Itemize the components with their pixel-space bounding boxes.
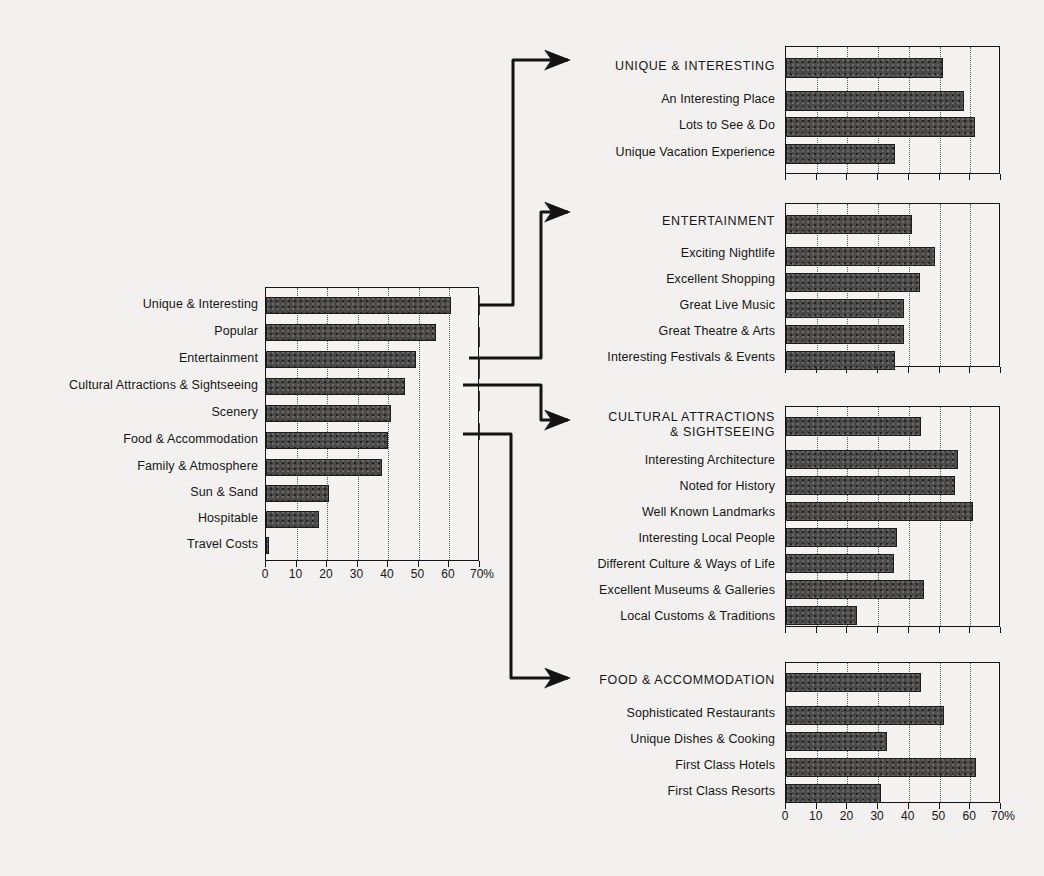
bar-entertainment-3 bbox=[786, 299, 904, 318]
food-tick-label-50: 50 bbox=[925, 809, 953, 823]
food-label-1: Sophisticated Restaurants bbox=[565, 706, 775, 720]
bar-unique-1 bbox=[786, 91, 964, 111]
cultural-label-0-line1: CULTURAL ATTRACTIONS bbox=[555, 410, 775, 424]
bar-main-9 bbox=[266, 537, 269, 554]
main-tick-label-30: 30 bbox=[343, 567, 371, 581]
cultural-label-7: Local Customs & Traditions bbox=[545, 609, 775, 623]
main-tick-label-60: 60 bbox=[434, 567, 462, 581]
main-tick-label-50: 50 bbox=[404, 567, 432, 581]
cultural-tick-10 bbox=[816, 627, 817, 633]
bar-food-1 bbox=[786, 706, 944, 725]
unique-tick-10 bbox=[816, 174, 817, 180]
bar-main-1 bbox=[266, 324, 436, 341]
food-tick-label-0: 0 bbox=[771, 809, 799, 823]
bar-main-5 bbox=[266, 432, 388, 449]
food-tick-label-30: 30 bbox=[863, 809, 891, 823]
bar-food-2 bbox=[786, 732, 887, 751]
gridline-60 bbox=[449, 288, 451, 560]
bar-main-8 bbox=[266, 511, 319, 528]
food-tick-label-10: 10 bbox=[802, 809, 830, 823]
unique-tick-50 bbox=[939, 174, 940, 180]
entertainment-tick-20 bbox=[846, 367, 847, 373]
cultural-tick-30 bbox=[877, 627, 878, 633]
cultural-label-0-line2: & SIGHTSEEING bbox=[555, 425, 775, 439]
main-label-8: Hospitable bbox=[30, 511, 258, 525]
bar-cultural-6 bbox=[786, 580, 924, 599]
entertainment-label-1: Exciting Nightlife bbox=[575, 246, 775, 260]
unique-tick-60 bbox=[969, 174, 970, 180]
unique-label-2: Lots to See & Do bbox=[575, 118, 775, 132]
bar-unique-0 bbox=[786, 58, 943, 78]
cultural-tick-0 bbox=[785, 627, 786, 633]
bar-cultural-2 bbox=[786, 476, 955, 495]
unique-tick-20 bbox=[846, 174, 847, 180]
food-tick-label-40: 40 bbox=[894, 809, 922, 823]
main-tick-label-40: 40 bbox=[373, 567, 401, 581]
cultural-tick-70 bbox=[1000, 627, 1001, 633]
connector-unique bbox=[479, 60, 568, 305]
entertainment-tick-0 bbox=[785, 367, 786, 373]
bar-entertainment-0 bbox=[786, 215, 912, 234]
unique-tick-70 bbox=[1000, 174, 1001, 180]
main-plot-area bbox=[265, 287, 479, 561]
bar-entertainment-5 bbox=[786, 351, 895, 370]
unique-tick-40 bbox=[908, 174, 909, 180]
bar-unique-3 bbox=[786, 144, 895, 164]
cultural-label-5: Different Culture & Ways of Life bbox=[545, 557, 775, 571]
bar-food-4 bbox=[786, 784, 881, 803]
bar-cultural-1 bbox=[786, 450, 958, 469]
bar-main-6 bbox=[266, 459, 382, 476]
gridline-50 bbox=[940, 663, 942, 802]
bar-cultural-0 bbox=[786, 417, 921, 436]
bar-cultural-5 bbox=[786, 554, 894, 573]
entertainment-label-4: Great Theatre & Arts bbox=[575, 324, 775, 338]
entertainment-label-2: Excellent Shopping bbox=[575, 272, 775, 286]
cultural-tick-60 bbox=[969, 627, 970, 633]
main-label-5: Food & Accommodation bbox=[30, 432, 258, 446]
entertainment-tick-10 bbox=[816, 367, 817, 373]
unique-label-3: Unique Vacation Experience bbox=[575, 145, 775, 159]
unique-tick-0 bbox=[785, 174, 786, 180]
bar-main-0 bbox=[266, 297, 451, 314]
bar-main-2 bbox=[266, 351, 416, 368]
entertainment-plot-area bbox=[785, 203, 1000, 367]
gridline-60 bbox=[970, 663, 972, 802]
unique-tick-30 bbox=[877, 174, 878, 180]
bar-entertainment-4 bbox=[786, 325, 904, 344]
entertainment-tick-40 bbox=[908, 367, 909, 373]
main-label-6: Family & Atmosphere bbox=[30, 459, 258, 473]
figure-canvas: Unique & Interesting Popular Entertainme… bbox=[0, 0, 1044, 876]
food-plot-area bbox=[785, 662, 1000, 803]
cultural-plot-area bbox=[785, 406, 1000, 627]
bar-food-3 bbox=[786, 758, 976, 777]
main-tick-label-20: 20 bbox=[312, 567, 340, 581]
bar-cultural-4 bbox=[786, 528, 897, 547]
main-tick-label-0: 0 bbox=[251, 567, 279, 581]
main-tick-label-70: 70% bbox=[464, 567, 500, 581]
bar-food-0 bbox=[786, 673, 921, 692]
cultural-label-4: Interesting Local People bbox=[555, 531, 775, 545]
main-label-0: Unique & Interesting bbox=[30, 297, 258, 311]
main-tick-label-10: 10 bbox=[282, 567, 310, 581]
bar-cultural-7 bbox=[786, 606, 857, 625]
entertainment-tick-70 bbox=[1000, 367, 1001, 373]
entertainment-label-0: ENTERTAINMENT bbox=[575, 214, 775, 228]
food-label-4: First Class Resorts bbox=[565, 784, 775, 798]
entertainment-label-5: Interesting Festivals & Events bbox=[565, 350, 775, 364]
gridline-50 bbox=[940, 204, 942, 366]
food-label-0: FOOD & ACCOMMODATION bbox=[565, 673, 775, 687]
cultural-label-2: Noted for History bbox=[555, 479, 775, 493]
gridline-60 bbox=[970, 204, 972, 366]
bar-main-3 bbox=[266, 378, 405, 395]
bar-main-7 bbox=[266, 485, 329, 502]
main-label-2: Entertainment bbox=[30, 351, 258, 365]
main-label-3: Cultural Attractions & Sightseeing bbox=[10, 378, 258, 392]
bar-entertainment-1 bbox=[786, 247, 935, 266]
main-label-1: Popular bbox=[30, 324, 258, 338]
connector-entertainment bbox=[469, 212, 568, 358]
food-label-3: First Class Hotels bbox=[565, 758, 775, 772]
cultural-label-1: Interesting Architecture bbox=[555, 453, 775, 467]
main-label-4: Scenery bbox=[30, 405, 258, 419]
main-label-7: Sun & Sand bbox=[30, 485, 258, 499]
gridline-60 bbox=[970, 47, 972, 173]
